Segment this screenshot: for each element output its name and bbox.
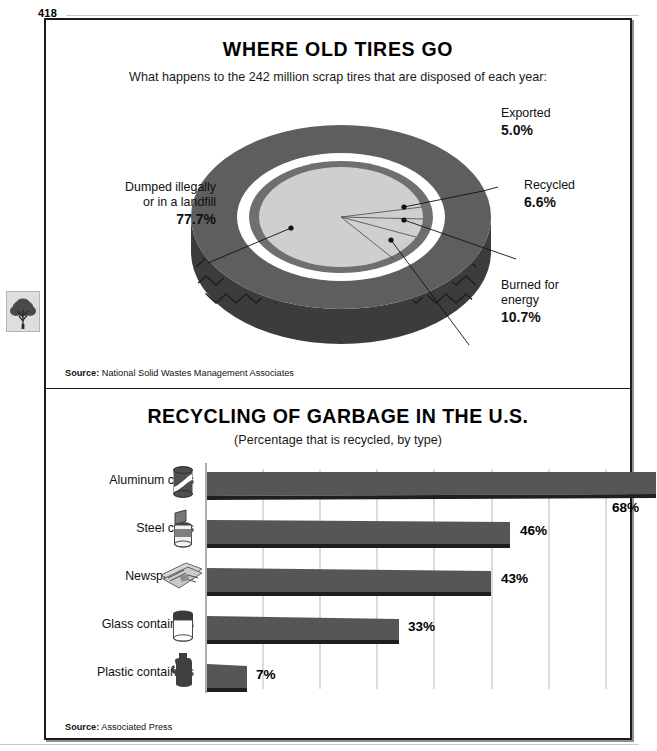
bar-value-plastic-containers: 7% — [256, 667, 276, 682]
recycling-bar-plot: Aluminum cans 68% Steel cans — [46, 461, 634, 706]
tires-source-text: National Solid Wastes Management Associa… — [102, 368, 294, 378]
plastic-jug-icon — [166, 651, 200, 691]
callout-recycled-value: 6.6% — [524, 195, 634, 210]
callout-exported-line1: Exported — [501, 106, 551, 120]
callout-exported-value: 5.0% — [501, 123, 611, 138]
steel-can-icon — [166, 509, 200, 549]
newspaper-icon — [158, 557, 204, 597]
recycling-chart-title: RECYCLING OF GARBAGE IN THE U.S. — [46, 405, 630, 428]
tires-source-label: Source: — [65, 368, 99, 378]
callout-recycled-line1: Recycled — [524, 178, 575, 192]
callout-dumped-line2: or in a landfill — [143, 195, 216, 209]
callout-burned-line1: Burned for — [501, 278, 559, 292]
header-rule — [66, 15, 639, 16]
glass-jar-icon — [166, 605, 200, 645]
tree-icon — [6, 291, 40, 332]
callout-burned: Burned for energy 10.7% — [501, 278, 621, 325]
callout-dumped-value: 77.7% — [56, 212, 216, 227]
callout-burned-value: 10.7% — [501, 310, 621, 325]
bar-glass-containers — [207, 616, 400, 642]
recycling-source: Source: Associated Press — [65, 722, 172, 732]
recycling-source-text: Associated Press — [101, 722, 172, 732]
callout-recycled: Recycled 6.6% — [524, 178, 634, 210]
bar-value-glass-containers: 33% — [408, 619, 435, 634]
bar-plastic-containers — [207, 664, 248, 690]
bar-aluminum-cans — [207, 472, 657, 498]
bar-newspapers — [207, 568, 492, 594]
tires-source: Source: National Solid Wastes Management… — [65, 368, 294, 378]
tires-chart-title: WHERE OLD TIRES GO — [46, 38, 630, 61]
aluminum-can-icon — [166, 463, 200, 503]
footer-rule — [0, 744, 639, 745]
tires-chart-panel: WHERE OLD TIRES GO What happens to the 2… — [46, 20, 630, 388]
bar-value-aluminum-cans: 68% — [612, 500, 639, 515]
callout-exported: Exported 5.0% — [501, 106, 611, 138]
bar-value-newspapers: 43% — [501, 571, 528, 586]
recycling-chart-panel: RECYCLING OF GARBAGE IN THE U.S. (Percen… — [46, 389, 630, 741]
bar-steel-cans — [207, 520, 511, 546]
callout-dumped: Dumped illegally or in a landfill 77.7% — [56, 180, 216, 227]
callout-dumped-line1: Dumped illegally — [125, 180, 216, 194]
callout-burned-line2: energy — [501, 293, 539, 307]
recycling-chart-subtitle: (Percentage that is recycled, by type) — [46, 433, 630, 447]
figure-frame: WHERE OLD TIRES GO What happens to the 2… — [44, 18, 632, 740]
recycling-source-label: Source: — [65, 722, 99, 732]
bar-value-steel-cans: 46% — [520, 523, 547, 538]
tires-chart-subtitle: What happens to the 242 million scrap ti… — [46, 70, 630, 84]
